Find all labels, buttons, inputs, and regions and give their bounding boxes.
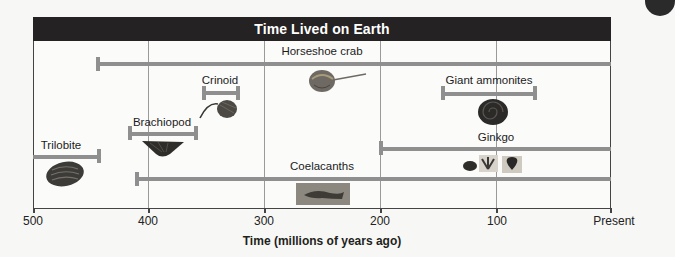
crinoid-icon xyxy=(198,96,242,122)
tick-label-100: 100 xyxy=(487,214,507,228)
bar-ginkgo xyxy=(380,147,611,151)
label-giant-ammonites: Giant ammonites xyxy=(446,74,533,86)
bar-cap xyxy=(96,57,100,71)
brachiopod-icon xyxy=(140,138,186,160)
axis-tick xyxy=(496,208,498,213)
axis-tick xyxy=(380,208,382,213)
page-corner xyxy=(645,0,675,16)
axis-tick xyxy=(148,208,150,213)
tick-label-500: 500 xyxy=(23,214,43,228)
bar-cap xyxy=(533,86,537,100)
bar-brachiopod xyxy=(130,132,196,136)
axis-tick xyxy=(610,208,612,213)
bar-giant-ammonites xyxy=(443,92,536,96)
ammonite-icon xyxy=(476,97,510,127)
axis-tick xyxy=(33,208,35,213)
axis-tick xyxy=(264,208,266,213)
coelacanth-fossil-icon xyxy=(296,183,350,205)
label-coelacanths: Coelacanths xyxy=(290,160,354,172)
label-crinoid: Crinoid xyxy=(202,74,238,86)
horseshoe-crab-icon xyxy=(306,67,370,99)
bar-cap xyxy=(128,126,132,140)
bar-coelacanths xyxy=(137,177,611,181)
label-brachiopod: Brachiopod xyxy=(133,116,191,128)
bar-horseshoe-crab xyxy=(98,62,611,66)
x-axis-label: Time (millions of years ago) xyxy=(243,234,401,248)
trilobite-icon xyxy=(44,160,86,188)
bar-cap xyxy=(441,86,445,100)
tick-label-300: 300 xyxy=(254,214,274,228)
tick-label-present: Present xyxy=(593,214,634,228)
gridline-300 xyxy=(264,41,265,209)
gridline-200 xyxy=(380,41,381,209)
tick-label-400: 400 xyxy=(138,214,158,228)
label-trilobite: Trilobite xyxy=(41,139,81,151)
bar-cap xyxy=(194,126,198,140)
bar-cap xyxy=(135,172,139,186)
tick-label-200: 200 xyxy=(370,214,390,228)
label-ginkgo: Ginkgo xyxy=(478,131,514,143)
bar-cap xyxy=(379,141,383,155)
chart-title: Time Lived on Earth xyxy=(33,17,611,41)
bar-cap xyxy=(97,149,101,163)
bar-trilobite xyxy=(33,155,99,159)
label-horseshoe-crab: Horseshoe crab xyxy=(281,45,362,57)
ginkgo-leaves-icon xyxy=(462,153,526,175)
bar-crinoid xyxy=(204,91,238,95)
